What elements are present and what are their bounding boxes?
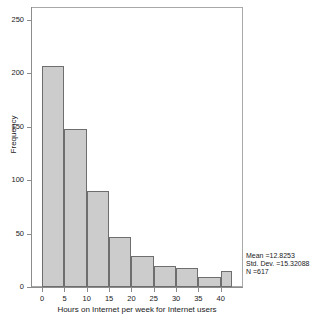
stat-mean: Mean =12.8253 [246,252,310,260]
y-axis-tick-label: 250 [0,16,24,24]
x-axis-tick-label: 10 [77,294,97,303]
stat-n: N =617 [246,268,310,276]
y-axis-tick-mark [27,234,31,235]
histogram-bar [221,271,232,287]
histogram-bar [176,268,198,287]
y-axis-tick-mark [27,20,31,21]
x-axis-tick-mark [64,288,65,292]
x-axis-tick-mark [198,288,199,292]
y-axis-tick-mark [27,73,31,74]
x-axis-tick-label: 30 [166,294,186,303]
y-axis-tick-mark [27,127,31,128]
stat-std-dev: Std. Dev. =15.32088 [246,260,310,268]
x-axis-tick-mark [42,288,43,292]
x-axis-tick-mark [109,288,110,292]
x-axis-tick-label: 20 [121,294,141,303]
x-axis-tick-mark [131,288,132,292]
histogram-chart: 050100150200250 0510152025303540 Frequen… [0,0,317,321]
x-axis-title: Hours on Internet per week for Internet … [31,305,243,314]
y-axis-tick-mark [27,180,31,181]
x-axis-tick-mark [176,288,177,292]
histogram-bar [42,66,64,287]
y-axis-title: Frequency [9,90,18,180]
x-axis-line [31,287,243,288]
statistics-annotation: Mean =12.8253 Std. Dev. =15.32088 N =617 [246,252,310,277]
histogram-bar [109,237,131,287]
y-axis-tick-label: 0 [0,283,24,291]
x-axis-tick-label: 25 [144,294,164,303]
x-axis-tick-mark [221,288,222,292]
y-axis-line [31,7,32,287]
histogram-bar [131,256,153,287]
x-axis-tick-label: 35 [188,294,208,303]
x-axis-tick-label: 0 [32,294,52,303]
x-axis-tick-mark [87,288,88,292]
x-axis-tick-label: 15 [99,294,119,303]
histogram-bar [87,191,109,287]
y-axis-tick-label: 50 [0,230,24,238]
x-axis-tick-mark [154,288,155,292]
y-axis-tick-label: 200 [0,69,24,77]
y-axis-tick-mark [27,287,31,288]
x-axis-tick-label: 5 [54,294,74,303]
histogram-bar [198,277,220,287]
histogram-bar [154,266,176,287]
bars-layer [31,7,243,287]
x-axis-tick-label: 40 [211,294,231,303]
histogram-bar [64,129,86,287]
